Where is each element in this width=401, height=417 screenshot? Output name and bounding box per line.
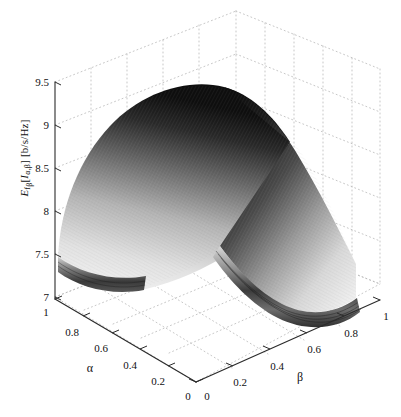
y-axis-title: β xyxy=(297,370,303,384)
y-tick-label: 0.2 xyxy=(233,376,247,388)
z-tick-label: 8.5 xyxy=(35,162,49,174)
z-tick-label: 7.5 xyxy=(35,248,49,260)
z-tick-label: 8 xyxy=(44,205,50,217)
surface-plot-canvas: 9.5 9 8.5 8 7.5 7 1 0.8 0.6 0.4 0.2 0 0 … xyxy=(0,0,401,417)
x-tick-label: 0.2 xyxy=(151,375,165,387)
z-axis-title: Efβ[Iα,β] [b/s/Hz] xyxy=(18,88,34,228)
figure-3d-surface-plot: 9.5 9 8.5 8 7.5 7 1 0.8 0.6 0.4 0.2 0 0 … xyxy=(0,0,401,417)
x-tick-labels: 1 0.8 0.6 0.4 0.2 0 xyxy=(43,306,191,402)
y-tick-label: 0.4 xyxy=(270,360,284,372)
z-tick-label: 7 xyxy=(44,291,50,303)
x-tick-label: 0.6 xyxy=(94,342,108,354)
x-tick-label: 1 xyxy=(43,306,49,318)
z-tick-label: 9 xyxy=(44,119,50,131)
y-tick-label: 0 xyxy=(204,390,210,402)
y-tick-label: 0.6 xyxy=(307,343,321,355)
x-axis-title: α xyxy=(87,361,94,375)
z-tick-label: 9.5 xyxy=(35,76,49,88)
y-tick-label: 1 xyxy=(383,310,389,322)
x-tick-label: 0 xyxy=(185,390,191,402)
x-tick-label: 0.4 xyxy=(123,359,137,371)
y-tick-label: 0.8 xyxy=(344,327,358,339)
z-tick-labels: 9.5 9 8.5 8 7.5 7 xyxy=(35,76,49,303)
x-tick-label: 0.8 xyxy=(65,326,79,338)
